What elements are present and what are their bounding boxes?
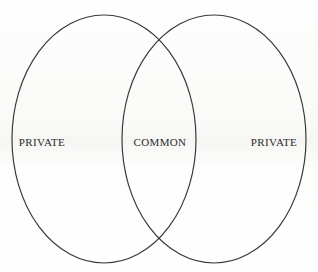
left-set-label: PRIVATE bbox=[19, 137, 65, 148]
right-set-label: PRIVATE bbox=[251, 137, 297, 148]
intersection-label: COMMON bbox=[134, 137, 187, 148]
venn-diagram-figure: PRIVATE COMMON PRIVATE bbox=[0, 0, 318, 272]
